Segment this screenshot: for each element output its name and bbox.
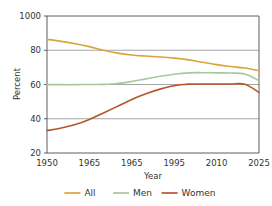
series-line-women — [47, 84, 259, 131]
x-axis-title: Year — [143, 171, 163, 181]
y-tick-labels: 100080604020 — [19, 11, 41, 158]
legend-item-men[interactable]: Men — [113, 188, 152, 198]
legend-item-all[interactable]: All — [64, 188, 95, 198]
y-tick-label-0: 1000 — [19, 11, 41, 21]
x-tick-label-2: 1965 — [121, 158, 143, 168]
legend-label-women: Women — [182, 188, 216, 198]
legend-label-men: Men — [133, 188, 152, 198]
y-tick-label-1: 80 — [30, 45, 41, 55]
y-tick-label-4: 20 — [30, 148, 41, 158]
x-tick-label-4: 2010 — [206, 158, 228, 168]
chart-svg: 100080604020 195019651965199520102025 Pe… — [0, 0, 272, 206]
legend-label-all: All — [84, 188, 95, 198]
legend-item-women[interactable]: Women — [162, 188, 216, 198]
y-tick-label-2: 60 — [30, 80, 41, 90]
x-tick-label-5: 2025 — [248, 158, 270, 168]
line-chart: 100080604020 195019651965199520102025 Pe… — [0, 0, 272, 206]
series-line-men — [47, 73, 259, 85]
chart-legend: AllMenWomen — [64, 188, 215, 198]
x-tick-labels: 195019651965199520102025 — [36, 158, 270, 168]
series-line-all — [47, 39, 259, 71]
x-tick-label-3: 1995 — [163, 158, 185, 168]
data-series — [47, 39, 259, 130]
x-tick-label-1: 1965 — [79, 158, 101, 168]
y-tick-label-3: 40 — [30, 114, 41, 124]
x-tick-label-0: 1950 — [36, 158, 58, 168]
y-axis-title: Percent — [12, 67, 22, 100]
